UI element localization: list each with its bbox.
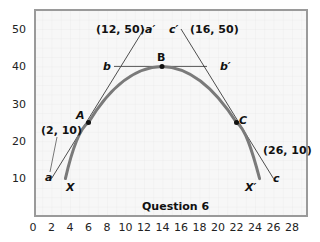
coord-label-16-50: (16, 50) xyxy=(190,23,239,36)
label-point-b: B xyxy=(157,51,165,64)
y-tick-50: 50 xyxy=(12,23,26,36)
y-tick-40: 40 xyxy=(12,60,26,73)
y-tick-20: 20 xyxy=(12,135,26,148)
x-tick-10: 10 xyxy=(119,221,133,234)
x-tick-6: 6 xyxy=(85,221,92,234)
y-axis: 50 40 30 20 10 xyxy=(12,23,26,185)
label-c-prime: c′ xyxy=(169,23,179,36)
label-c: c xyxy=(273,172,280,185)
y-tick-30: 30 xyxy=(12,98,26,111)
x-tick-16: 16 xyxy=(174,221,188,234)
label-a-prime: a′ xyxy=(145,23,155,36)
x-tick-26: 26 xyxy=(267,221,281,234)
x-tick-0: 0 xyxy=(30,221,37,234)
chart-title: Question 6 xyxy=(142,200,209,213)
x-axis: 0 2 4 6 8 10 12 14 16 18 20 22 24 26 28 xyxy=(30,221,300,234)
point-b xyxy=(160,64,165,69)
label-a: a xyxy=(45,171,52,184)
x-tick-4: 4 xyxy=(67,221,74,234)
label-x-prime: X′ xyxy=(244,181,256,194)
point-a xyxy=(86,120,91,125)
coord-label-26-10: (26, 10) xyxy=(263,144,312,157)
x-tick-2: 2 xyxy=(48,221,55,234)
x-tick-22: 22 xyxy=(230,221,244,234)
x-tick-28: 28 xyxy=(285,221,299,234)
y-tick-10: 10 xyxy=(12,172,26,185)
label-point-a: A xyxy=(75,109,85,122)
coord-label-12-50: (12, 50) xyxy=(96,23,145,36)
label-point-c: C xyxy=(239,114,247,127)
x-tick-12: 12 xyxy=(137,221,151,234)
x-tick-8: 8 xyxy=(104,221,111,234)
coord-label-2-10: (2, 10) xyxy=(41,124,82,137)
chart: (12, 50) a′ c′ (16, 50) b B b′ A C (2, 1… xyxy=(0,0,320,242)
x-tick-20: 20 xyxy=(211,221,225,234)
x-tick-14: 14 xyxy=(156,221,170,234)
label-b-prime: b′ xyxy=(220,60,231,73)
label-x: X xyxy=(65,181,75,194)
x-tick-24: 24 xyxy=(248,221,262,234)
label-b: b xyxy=(103,60,111,73)
x-tick-18: 18 xyxy=(193,221,207,234)
